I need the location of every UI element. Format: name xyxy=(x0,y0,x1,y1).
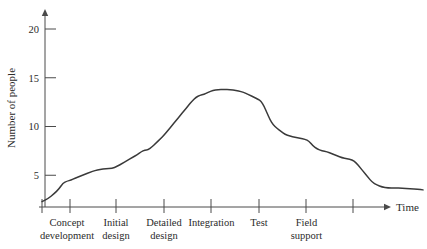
phase-label-1-line-1: design xyxy=(102,230,130,241)
phase-label-1-line-0: Initial xyxy=(103,217,128,228)
phase-label-4-line-0: Test xyxy=(250,217,267,228)
y-axis-ticks xyxy=(45,29,56,175)
phase-label-0-line-0: Concept xyxy=(50,217,85,228)
phase-label-5-line-0: Field xyxy=(296,217,318,228)
phase-label-3-line-0: Integration xyxy=(188,217,235,228)
phase-label-5-line-1: support xyxy=(291,230,323,241)
y-tick-label-10: 10 xyxy=(29,121,40,132)
y-tick-label-20: 20 xyxy=(29,24,40,35)
x-axis-phase-ticks xyxy=(42,199,353,213)
x-axis-title: Time xyxy=(396,201,419,213)
x-axis-arrow-icon xyxy=(384,204,391,210)
chart-canvas: 5 10 15 20 Number of people Conceptdevel… xyxy=(0,0,427,249)
y-axis-arrow-icon xyxy=(42,9,48,16)
phase-label-0-line-1: development xyxy=(40,230,94,241)
staffing-level-curve xyxy=(42,89,423,201)
x-axis-phase-labels: ConceptdevelopmentInitialdesignDetailedd… xyxy=(40,217,322,241)
staffing-curve-chart: 5 10 15 20 Number of people Conceptdevel… xyxy=(0,0,427,249)
y-tick-label-15: 15 xyxy=(29,73,40,84)
phase-label-2-line-1: design xyxy=(150,230,178,241)
phase-label-2-line-0: Detailed xyxy=(146,217,182,228)
y-tick-label-5: 5 xyxy=(34,170,39,181)
y-axis-title: Number of people xyxy=(5,68,17,148)
